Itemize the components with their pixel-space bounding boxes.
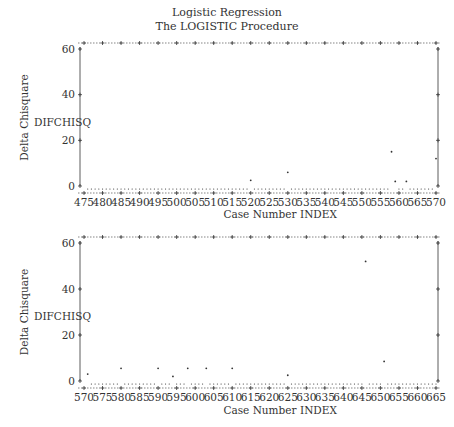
data-point-zero: [143, 383, 144, 384]
data-point-zero: [95, 383, 96, 384]
data-point-zero: [261, 383, 262, 384]
data-point: [231, 367, 233, 369]
data-point-zero: [295, 383, 296, 384]
data-point-zero: [280, 188, 281, 189]
data-point-zero: [413, 188, 414, 189]
data-point-zero: [180, 188, 181, 189]
data-point-zero: [261, 188, 262, 189]
y-variable-label: DIFCHISQ: [34, 310, 91, 322]
data-point-zero: [128, 383, 129, 384]
data-point-zero: [291, 188, 292, 189]
y-tick-label: 20: [62, 329, 75, 341]
data-point-zero: [306, 188, 307, 189]
x-tick-label: 585: [130, 391, 150, 403]
data-point-zero: [317, 383, 318, 384]
data-point: [405, 181, 407, 183]
data-point-zero: [258, 383, 259, 384]
data-point-zero: [395, 383, 396, 384]
data-point-zero: [120, 188, 121, 189]
data-point-zero: [309, 188, 310, 189]
data-point-zero: [421, 188, 422, 189]
data-point-zero: [135, 188, 136, 189]
data-point-zero: [417, 383, 418, 384]
data-point-zero: [258, 188, 259, 189]
scatter-panel-2: 0204060570575580585590595600605610615620…: [18, 235, 446, 416]
data-point-zero: [165, 383, 166, 384]
data-point-zero: [202, 383, 203, 384]
x-tick-label: 660: [407, 391, 427, 403]
data-point-zero: [243, 383, 244, 384]
data-point-zero: [254, 383, 255, 384]
data-point: [287, 171, 289, 173]
data-point-zero: [369, 188, 370, 189]
data-point-zero: [306, 383, 307, 384]
data-point-zero: [139, 383, 140, 384]
data-point-zero: [246, 188, 247, 189]
data-point-zero: [321, 188, 322, 189]
x-tick-label: 640: [333, 391, 353, 403]
data-point-zero: [228, 188, 229, 189]
x-tick-label: 505: [185, 196, 205, 208]
y-tick-label: 0: [68, 375, 75, 387]
x-tick-label: 635: [315, 391, 335, 403]
data-point-zero: [195, 383, 196, 384]
data-point-zero: [265, 188, 266, 189]
data-point-zero: [198, 383, 199, 384]
data-point-zero: [183, 383, 184, 384]
data-point: [87, 373, 89, 375]
data-point-zero: [187, 188, 188, 189]
data-point-zero: [328, 383, 329, 384]
data-point-zero: [276, 188, 277, 189]
data-point-zero: [421, 383, 422, 384]
data-point-zero: [272, 188, 273, 189]
data-point-zero: [291, 383, 292, 384]
data-point-zero: [109, 188, 110, 189]
data-point-zero: [135, 383, 136, 384]
data-point-zero: [376, 188, 377, 189]
x-tick-label: 520: [241, 196, 261, 208]
data-point-zero: [113, 188, 114, 189]
data-point-zero: [180, 383, 181, 384]
y-tick-label: 0: [68, 180, 75, 192]
data-point-zero: [195, 188, 196, 189]
data-point-zero: [372, 383, 373, 384]
data-point: [435, 158, 437, 160]
y-tick-label: 60: [62, 43, 75, 55]
x-tick-label: 555: [370, 196, 390, 208]
y-variable-label: DIFCHISQ: [34, 116, 91, 128]
data-point-zero: [158, 188, 159, 189]
data-point-zero: [224, 383, 225, 384]
data-point-zero: [387, 188, 388, 189]
x-tick-label: 620: [259, 391, 279, 403]
data-point-zero: [335, 188, 336, 189]
data-point-zero: [361, 383, 362, 384]
data-point-zero: [220, 383, 221, 384]
x-axis-title: Case Number: [223, 208, 297, 220]
data-point-zero: [402, 188, 403, 189]
data-point-zero: [398, 188, 399, 189]
x-tick-label: 645: [352, 391, 372, 403]
data-point: [391, 151, 393, 153]
data-point: [157, 367, 159, 369]
data-point-zero: [391, 383, 392, 384]
data-point-zero: [239, 188, 240, 189]
data-point-zero: [198, 188, 199, 189]
data-point-zero: [243, 188, 244, 189]
data-point-zero: [313, 383, 314, 384]
data-point: [205, 367, 207, 369]
data-point-zero: [328, 188, 329, 189]
data-point-zero: [283, 188, 284, 189]
data-point-zero: [172, 188, 173, 189]
data-point-zero: [91, 383, 92, 384]
data-point-zero: [269, 188, 270, 189]
data-point-zero: [380, 188, 381, 189]
data-point-zero: [384, 188, 385, 189]
data-point-zero: [206, 188, 207, 189]
data-point-zero: [132, 188, 133, 189]
data-point-zero: [409, 383, 410, 384]
data-point-zero: [102, 188, 103, 189]
data-point-zero: [154, 383, 155, 384]
x-tick-label: 595: [167, 391, 187, 403]
data-point-zero: [402, 383, 403, 384]
data-point-zero: [128, 188, 129, 189]
